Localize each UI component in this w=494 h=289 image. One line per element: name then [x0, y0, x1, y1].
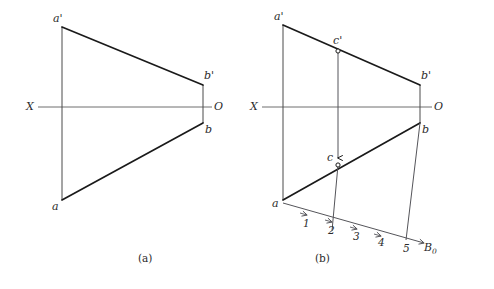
point-marker-c [336, 163, 340, 167]
scale-tick-2 [325, 220, 332, 222]
panel-a-label-o: O [214, 101, 223, 112]
panel-b-label-o: O [434, 101, 443, 112]
panel-b-scale-label-1: 1 [303, 218, 310, 229]
panel-b-geometry [262, 25, 432, 243]
panel-b-line-a-b [283, 123, 420, 200]
panel-a-line-ap-bp [62, 27, 203, 85]
panel-b-point-label-a: a [272, 198, 279, 209]
panel-a-label-x: X [26, 101, 34, 112]
panel-b-label-x: X [250, 101, 258, 112]
point-marker-c-prime [336, 49, 340, 53]
panel-b-point-label-b: b [422, 124, 429, 135]
baseline-subscript: 0 [432, 247, 437, 256]
scale-tick-3 [350, 227, 357, 229]
panel-a-line-a-b [62, 123, 203, 200]
panel-b-scale-label-5: 5 [403, 243, 410, 254]
panel-b-scale-label-2: 2 [328, 225, 335, 236]
panel-b-line-ap-bp [283, 25, 420, 85]
panel-b-scale-label-3: 3 [353, 231, 360, 242]
panel-b-point-label-c-prime: c' [333, 35, 342, 46]
scale-tick-1 [300, 213, 307, 215]
panel-b-baseline-label: B0 [424, 242, 437, 256]
panel-a-point-label-a-prime: a' [53, 13, 63, 24]
panel-b-caption: (b) [315, 253, 330, 264]
panel-a-point-label-b-prime: b' [204, 70, 214, 81]
panel-a-point-label-b: b [205, 124, 212, 135]
baseline-letter: B [424, 241, 432, 254]
panel-a-geometry [38, 27, 212, 200]
panel-a-point-label-a: a [52, 201, 59, 212]
panel-b-projector-c-to-scale [332, 165, 338, 231]
panel-b-point-label-c: c [327, 152, 333, 163]
figure-root: X O a' b' b a (a) X O a' c' b' b c a 1 2… [0, 0, 494, 289]
panel-b-point-label-b-prime: b' [421, 70, 431, 81]
panel-a-caption: (a) [138, 253, 152, 264]
panel-b-connector-b-to-5 [406, 123, 420, 240]
technical-drawing-canvas [0, 0, 494, 289]
panel-b-scale-label-4: 4 [378, 237, 385, 248]
panel-b-point-label-a-prime: a' [274, 11, 284, 22]
panel-b-scale-ticks [300, 213, 381, 236]
